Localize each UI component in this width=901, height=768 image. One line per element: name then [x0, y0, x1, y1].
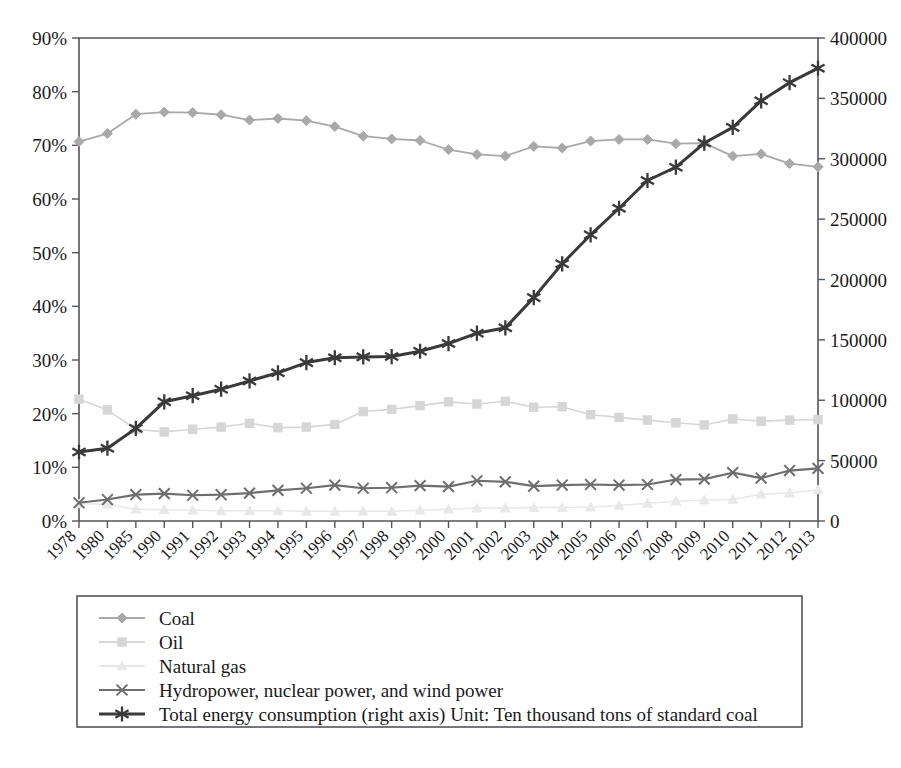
x-axis-tick-label: 2008	[639, 526, 676, 563]
data-point-marker	[131, 109, 141, 119]
data-point-marker	[813, 162, 823, 172]
legend-item[interactable]: Hydropower, nuclear power, and wind powe…	[99, 680, 504, 701]
data-point-marker	[586, 411, 594, 419]
left-axis: 0%10%20%30%40%50%60%70%80%90%	[32, 28, 79, 532]
data-point-marker	[811, 61, 824, 76]
data-point-marker	[785, 416, 793, 424]
legend-label: Hydropower, nuclear power, and wind powe…	[159, 680, 504, 701]
series-oil	[75, 395, 822, 436]
x-axis-tick-label: 2009	[668, 526, 705, 563]
right-axis-tick-label: 250000	[830, 209, 887, 230]
data-point-marker	[245, 115, 255, 125]
data-point-marker	[814, 415, 822, 423]
chart-canvas: 0%10%20%30%40%50%60%70%80%90%05000010000…	[0, 0, 901, 768]
data-point-marker	[643, 416, 651, 424]
left-axis-tick-label: 50%	[32, 243, 67, 264]
x-axis-tick-label: 1991	[156, 526, 193, 563]
data-point-marker	[216, 110, 226, 120]
data-point-marker	[785, 159, 795, 169]
data-point-marker	[274, 423, 282, 431]
data-point-marker	[359, 407, 367, 415]
data-point-marker	[103, 406, 111, 414]
data-point-marker	[783, 75, 796, 90]
left-axis-tick-label: 20%	[32, 404, 67, 425]
right-axis-tick-label: 100000	[830, 390, 887, 411]
left-axis-tick-label: 10%	[32, 457, 67, 478]
data-point-marker	[387, 134, 397, 144]
data-point-marker	[358, 131, 368, 141]
data-point-marker	[188, 425, 196, 433]
data-point-marker	[416, 401, 424, 409]
data-point-marker	[530, 403, 538, 411]
x-axis-tick-label: 1999	[383, 526, 420, 563]
x-axis-tick-label: 1990	[128, 526, 165, 563]
legend-item[interactable]: Total energy consumption (right axis) Un…	[99, 704, 758, 726]
data-point-marker	[700, 421, 708, 429]
data-point-marker	[188, 108, 198, 118]
x-axis-tick-label: 1998	[355, 526, 392, 563]
data-point-marker	[501, 397, 509, 405]
data-point-marker	[415, 136, 425, 146]
data-point-marker	[500, 151, 510, 161]
data-point-marker	[728, 151, 738, 161]
x-axis-tick-label: 1993	[213, 526, 250, 563]
left-axis-tick-label: 60%	[32, 189, 67, 210]
left-axis-tick-label: 70%	[32, 135, 67, 156]
legend-label: Coal	[159, 608, 195, 629]
right-axis-tick-label: 300000	[830, 149, 887, 170]
series-natural-gas	[74, 485, 823, 515]
x-axis-tick-label: 2003	[497, 526, 534, 563]
right-axis: 0500001000001500002000002500003000003500…	[818, 28, 887, 532]
data-point-marker	[615, 413, 623, 421]
legend-swatch-marker	[117, 613, 127, 623]
data-point-marker	[330, 122, 340, 132]
data-point-marker	[671, 139, 681, 149]
data-point-marker	[529, 141, 539, 151]
data-point-marker	[642, 134, 652, 144]
legend-item[interactable]: Oil	[99, 632, 183, 653]
data-point-marker	[586, 136, 596, 146]
data-point-marker	[245, 419, 253, 427]
right-axis-tick-label: 0	[830, 511, 840, 532]
x-axis-tick-label: 2004	[526, 526, 564, 564]
legend-swatch-marker	[118, 638, 126, 646]
legend-item[interactable]: Natural gas	[99, 656, 246, 677]
left-axis-tick-label: 90%	[32, 28, 67, 49]
data-point-marker	[614, 134, 624, 144]
data-point-marker	[756, 149, 766, 159]
data-point-marker	[813, 485, 823, 494]
legend-label: Total energy consumption (right axis) Un…	[159, 704, 758, 726]
x-axis-tick-label: 2010	[696, 526, 733, 563]
data-point-marker	[301, 116, 311, 126]
data-point-marker	[331, 420, 339, 428]
data-point-marker	[159, 107, 169, 117]
right-axis-tick-label: 150000	[830, 330, 887, 351]
data-point-marker	[757, 417, 765, 425]
series-line	[79, 112, 818, 167]
left-axis-tick-label: 40%	[32, 296, 67, 317]
energy-mix-chart-figure: 0%10%20%30%40%50%60%70%80%90%05000010000…	[0, 0, 901, 768]
x-axis-tick-label: 1995	[270, 526, 307, 563]
x-axis-tick-label: 1980	[71, 526, 108, 563]
data-point-marker	[444, 145, 454, 155]
data-point-marker	[558, 402, 566, 410]
x-axis-tick-label: 1992	[184, 526, 221, 563]
data-point-marker	[273, 114, 283, 124]
data-point-marker	[217, 423, 225, 431]
x-axis-tick-label: 1996	[298, 526, 335, 563]
data-point-marker	[472, 149, 482, 159]
right-axis-tick-label: 400000	[830, 28, 887, 49]
data-point-marker	[102, 129, 112, 139]
x-axis-tick-label: 1985	[99, 526, 136, 563]
legend: CoalOilNatural gasHydropower, nuclear po…	[77, 596, 802, 727]
data-point-marker	[75, 395, 83, 403]
legend-label: Oil	[159, 632, 183, 653]
x-axis-tick-label: 1994	[241, 526, 279, 564]
x-axis-tick-label: 2006	[582, 526, 619, 563]
series-hydropower-nuclear-power-and-wind-power	[74, 463, 824, 508]
x-axis-tick-label: 2002	[469, 526, 506, 563]
legend-item[interactable]: Coal	[99, 608, 195, 629]
data-point-marker	[557, 143, 567, 153]
data-point-marker	[473, 400, 481, 408]
x-axis: 1978198019851990199119921993199419951996…	[42, 521, 818, 564]
